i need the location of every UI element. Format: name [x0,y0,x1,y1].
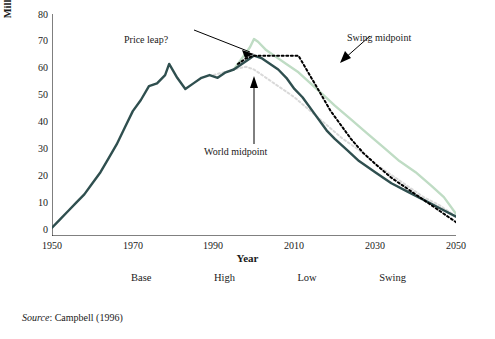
y-tick-30: 30 [22,143,48,154]
annotation-price-leap: Price leap? [124,34,168,45]
x-tick-1950: 1950 [32,240,72,251]
y-tick-10: 10 [22,197,48,208]
legend-item-high[interactable]: High [179,272,235,283]
y-tick-50: 50 [22,89,48,100]
annotation-world-midpoint: World midpoint [204,146,267,157]
chart-canvas [52,14,456,236]
legend-item-swing[interactable]: Swing [344,272,406,283]
y-tick-40: 40 [22,116,48,127]
plot-area: Price leap? Swing midpoint World midpoin… [52,14,456,236]
y-tick-60: 60 [22,62,48,73]
x-tick-2050: 2050 [436,240,476,251]
x-axis-title: Year [0,252,495,264]
y-tick-0: 0 [22,224,48,235]
series-line-high [234,39,456,214]
annotation-arrows [194,30,370,144]
y-axis-title: Million barrels per day (mb/d) [2,0,13,40]
legend-label-swing: Swing [379,272,406,283]
x-tick-1990: 1990 [193,240,233,251]
y-tick-80: 80 [22,9,48,20]
x-tick-2030: 2030 [355,240,395,251]
chart-figure: Million barrels per day (mb/d) 80 70 60 … [0,0,495,339]
annotation-swing-midpoint: Swing midpoint [347,32,411,43]
y-axis-title-wrap: Million barrels per day (mb/d) [8,18,22,218]
legend-item-low[interactable]: Low [262,272,316,283]
legend-label-low: Low [297,272,316,283]
legend-label-high: High [214,272,235,283]
series-line-low [214,67,456,217]
legend-label-base: Base [131,272,151,283]
y-tick-20: 20 [22,170,48,181]
chart-legend: Base High Low Swing [96,272,406,283]
legend-item-base[interactable]: Base [96,272,151,283]
x-tick-1970: 1970 [113,240,153,251]
source-text: : Campbell (1996) [49,312,122,323]
x-tick-2010: 2010 [274,240,314,251]
y-tick-70: 70 [22,35,48,46]
source-note: Source: Campbell (1996) [22,312,123,323]
source-prefix: Source [22,312,49,323]
